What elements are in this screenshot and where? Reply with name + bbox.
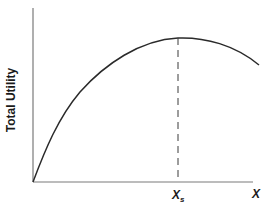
xs-label-subscript: s xyxy=(180,195,185,204)
total-utility-chart: Total Utility Xs X xyxy=(0,0,270,213)
xs-label: Xs xyxy=(171,188,185,204)
x-axis-label: X xyxy=(251,187,261,201)
y-axis-label: Total Utility xyxy=(4,67,18,132)
total-utility-curve xyxy=(33,38,259,182)
